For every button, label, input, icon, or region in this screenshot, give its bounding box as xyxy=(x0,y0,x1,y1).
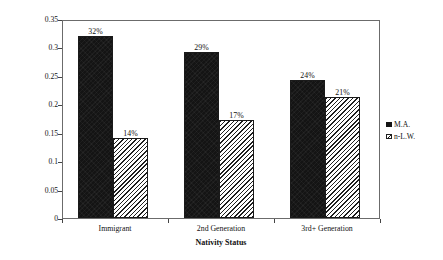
y-axis-tick-label: 0.1 xyxy=(32,158,58,166)
y-axis-tick-label: 0.2 xyxy=(32,101,58,109)
y-axis-tick-label: 0.3 xyxy=(32,44,58,52)
x-axis-tick-mark xyxy=(168,219,169,223)
chart-screenshot: Percentage of Students Making One or Mor… xyxy=(0,0,443,260)
y-axis-tick-label: 0 xyxy=(32,215,58,223)
bar-value-label: 32% xyxy=(78,27,113,36)
chart-legend: M.A.n-L.W. xyxy=(386,119,442,143)
x-axis-title: Nativity Status xyxy=(62,238,380,248)
legend-swatch-icon xyxy=(386,122,392,128)
legend-item-label: n-L.W. xyxy=(394,132,415,141)
plot-area: 32%14%29%17%24%21% xyxy=(63,21,379,218)
x-axis-tick-mark xyxy=(380,219,381,223)
y-axis-tick-label: 0.25 xyxy=(32,73,58,81)
y-axis-tick-label: 0.35 xyxy=(32,16,58,24)
bar-nlw-1 xyxy=(219,120,254,218)
bar-value-label: 17% xyxy=(219,111,254,120)
y-axis-tick-label: 0.15 xyxy=(32,130,58,138)
bar-value-label: 14% xyxy=(113,129,148,138)
bar-value-label: 21% xyxy=(325,88,360,97)
legend-item-label: M.A. xyxy=(394,120,410,129)
y-axis-tick-label: 0.05 xyxy=(32,187,58,195)
bar-value-label: 29% xyxy=(184,43,219,52)
bar-nlw-2 xyxy=(325,97,360,218)
x-axis-category-label: 2nd Generation xyxy=(168,224,274,234)
bar-ma-1 xyxy=(184,52,219,218)
legend-swatch-icon xyxy=(386,134,392,140)
bar-ma-0 xyxy=(78,36,113,218)
bar-nlw-0 xyxy=(113,138,148,218)
y-axis-tick-labels: 00.050.10.150.20.250.30.35 xyxy=(30,20,58,219)
legend-item-ma[interactable]: M.A. xyxy=(386,119,442,130)
x-axis-category-label: Immigrant xyxy=(62,224,168,234)
x-axis-category-label: 3rd+ Generation xyxy=(274,224,380,234)
bar-value-label: 24% xyxy=(290,71,325,80)
x-axis-tick-mark xyxy=(274,219,275,223)
legend-item-nlw[interactable]: n-L.W. xyxy=(386,131,442,142)
x-axis-tick-mark xyxy=(62,219,63,223)
plot-frame: 32%14%29%17%24%21% xyxy=(62,20,380,219)
bar-ma-2 xyxy=(290,80,325,218)
